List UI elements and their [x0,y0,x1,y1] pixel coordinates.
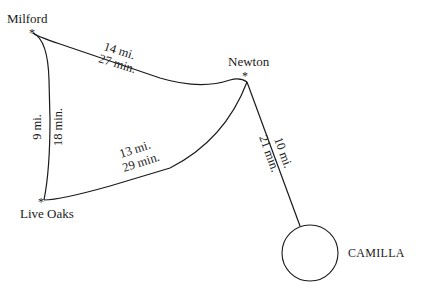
road-milford-newton [33,33,247,85]
city-label-camilla: CAMILLA [348,246,405,260]
route-time-milford-live-oaks: 18 min. [51,108,65,146]
town-label-newton: Newton [228,54,270,69]
route-distance-milford-live-oaks: 9 mi. [30,114,44,140]
route-map: * * * Milford Newton Live Oaks CAMILLA 1… [0,0,425,295]
town-label-milford: Milford [7,11,48,26]
milford-marker-icon: * [29,26,35,40]
camilla-city-circle [282,225,338,281]
newton-marker-icon: * [242,69,248,83]
town-label-live-oaks: Live Oaks [20,206,74,221]
